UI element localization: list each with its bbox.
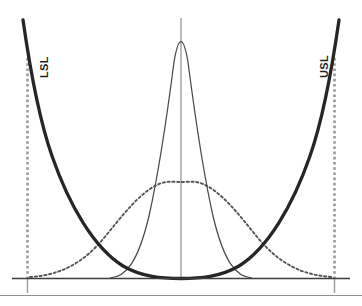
capability-loss-function-figure: LSL USL <box>0 0 362 306</box>
usl-label: USL <box>318 55 330 78</box>
plot-canvas <box>0 0 362 306</box>
lsl-label: LSL <box>38 56 50 78</box>
